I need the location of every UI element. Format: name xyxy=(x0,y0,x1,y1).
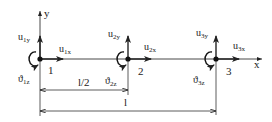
u1y-label: u1y xyxy=(18,31,31,44)
u2x-label: u2x xyxy=(144,41,157,54)
node-1-number: 1 xyxy=(48,64,54,76)
node-3: u3y u3x ϑ3z 3 xyxy=(193,27,246,87)
theta3z-label: ϑ3z xyxy=(193,74,205,87)
dimension-full-label: l xyxy=(124,96,127,108)
u3x-label: u3x xyxy=(233,40,246,53)
node-1: u1y u1x ϑ1z 1 xyxy=(18,31,72,86)
u2y-label: u2y xyxy=(108,28,121,41)
x-axis-label: x xyxy=(254,58,260,70)
u3y-label: u3y xyxy=(196,27,209,40)
u1x-label: u1x xyxy=(59,43,72,56)
theta1z-label: ϑ1z xyxy=(18,73,30,86)
node-2: u2y u2x ϑ2z 2 xyxy=(105,28,157,88)
theta2z-label: ϑ2z xyxy=(105,75,117,88)
rotation-1-icon xyxy=(29,52,38,66)
dimension-half-label: l/2 xyxy=(78,76,90,88)
y-axis-label: y xyxy=(44,7,50,19)
node-3-number: 3 xyxy=(226,65,232,77)
beam-element-diagram: y x l/2 l u1y u1x ϑ1z 1 u2y u2x ϑ2z 2 u3… xyxy=(0,0,272,122)
node-2-number: 2 xyxy=(138,65,144,77)
